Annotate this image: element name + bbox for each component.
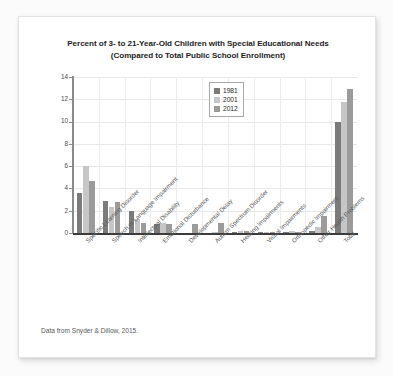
gridline-vertical: [305, 77, 306, 233]
bar: [335, 122, 341, 233]
legend-item[interactable]: 2001: [214, 95, 238, 104]
x-axis-tick-label: Visual Impairments: [265, 239, 270, 244]
x-axis-tick-label: Emotional Disturbance: [161, 239, 166, 244]
x-axis-tick-label: Specific Learning Disorder: [84, 239, 89, 244]
y-axis-tick-mark: [69, 211, 72, 212]
y-axis-tick-label: 8: [52, 141, 68, 147]
x-axis-tick-label: Autism Spectrum Disorder: [213, 239, 218, 244]
bar: [347, 89, 353, 233]
legend-swatch-icon: [214, 88, 220, 94]
gridline-vertical: [280, 77, 281, 233]
y-axis-tick-mark: [69, 188, 72, 189]
x-axis-tick-label: Intellectual Disability: [136, 239, 141, 244]
x-axis-spine: [73, 233, 358, 235]
gridline-vertical: [150, 77, 151, 233]
bar: [83, 166, 89, 233]
y-axis-tick-mark: [69, 77, 72, 78]
chart-legend: 198120012012: [209, 82, 244, 117]
y-axis-tick-label: 6: [52, 163, 68, 169]
y-axis-tick-label: 2: [52, 208, 68, 214]
legend-swatch-icon: [214, 97, 220, 103]
bar: [154, 224, 160, 233]
gridline-horizontal: [73, 77, 357, 78]
y-axis-tick-label: 14: [52, 74, 68, 80]
bar: [321, 216, 327, 233]
legend-item[interactable]: 2012: [214, 104, 238, 113]
bar: [141, 223, 147, 233]
y-axis-spine: [72, 76, 74, 234]
gridline-horizontal: [73, 166, 357, 167]
gridline-horizontal: [73, 144, 357, 145]
legend-item[interactable]: 1981: [214, 86, 238, 95]
y-axis-tick-label: 12: [52, 96, 68, 102]
chart-card: Percent of 3- to 21-Year-Old Children wi…: [18, 16, 376, 358]
gridline-vertical: [254, 77, 255, 233]
bar: [160, 223, 166, 233]
y-axis-tick-label: 0: [52, 230, 68, 236]
y-axis-tick-mark: [69, 122, 72, 123]
y-axis-tick-mark: [69, 99, 72, 100]
gridline-horizontal: [73, 188, 357, 189]
y-axis-tick-label: 4: [52, 185, 68, 191]
gridline-vertical: [125, 77, 126, 233]
bar: [135, 219, 141, 233]
bar: [341, 102, 347, 233]
x-axis-tick-label: Developmental Delay: [187, 239, 192, 244]
y-axis-tick-label: 10: [52, 118, 68, 124]
legend-swatch-icon: [214, 106, 220, 112]
bar: [129, 211, 135, 233]
bar-chart: 02468101214 198120012012 Specific Learni…: [19, 17, 377, 359]
bar: [192, 224, 198, 233]
x-axis-tick-label: Speech or Language Impairment: [110, 239, 115, 244]
bar: [109, 207, 115, 233]
gridline-vertical: [202, 77, 203, 233]
x-axis-tick-label: Total: [342, 239, 347, 244]
gridline-vertical: [331, 77, 332, 233]
bar: [103, 201, 109, 233]
bar: [166, 224, 172, 233]
x-axis-tick-label: Other Health Problems: [316, 239, 321, 244]
gridline-vertical: [99, 77, 100, 233]
bar: [77, 193, 83, 233]
bar: [115, 202, 121, 233]
bar: [218, 223, 224, 233]
y-axis-tick-mark: [69, 166, 72, 167]
legend-label: 2012: [223, 104, 238, 113]
y-axis-tick-labels: 02468101214: [49, 77, 68, 233]
x-axis-tick-label: Orthopedic Impairment: [290, 239, 295, 244]
legend-label: 2001: [223, 95, 238, 104]
source-note: Data from Snyder & Dillow, 2015.: [41, 327, 138, 334]
legend-label: 1981: [223, 86, 238, 95]
y-axis-tick-mark: [69, 233, 72, 234]
y-axis-tick-mark: [69, 144, 72, 145]
gridline-horizontal: [73, 122, 357, 123]
x-axis-tick-label: Hearing Impairments: [239, 239, 244, 244]
gridline-vertical: [176, 77, 177, 233]
page-background: Percent of 3- to 21-Year-Old Children wi…: [0, 0, 393, 376]
bar: [89, 181, 95, 233]
